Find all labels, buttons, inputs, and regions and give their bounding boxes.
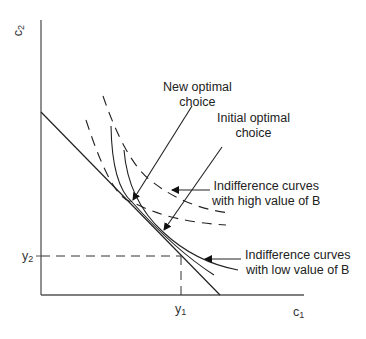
indifference-curve-high-b-1 (86, 120, 226, 225)
y-axis-label-sub: 2 (16, 25, 26, 30)
initial-optimal-line2: choice (217, 126, 290, 141)
x-axis-label-sub: 1 (299, 310, 304, 320)
y2-tick-label: y2 (22, 249, 33, 266)
low-b-line1: Indifference curves (245, 248, 350, 263)
budget-line (41, 112, 220, 295)
y2-tick-sub: 2 (28, 254, 33, 264)
y-axis-label: c2 (11, 25, 28, 36)
new-optimal-line1: New optimal (163, 80, 232, 95)
y1-tick-label: y1 (175, 302, 186, 319)
indifference-curve-low-b-2 (124, 150, 238, 270)
y1-tick-sub: 1 (181, 307, 186, 317)
x-axis-label: c1 (293, 305, 304, 322)
low-b-label: Indifference curves with low value of B (245, 248, 350, 278)
diagram-canvas (0, 0, 366, 339)
high-b-line2: with high value of B (212, 194, 320, 209)
new-optimal-label: New optimal choice (163, 80, 232, 110)
initial-optimal-label: Initial optimal choice (217, 111, 290, 141)
low-b-line2: with low value of B (245, 263, 350, 278)
y-axis-label-text: c (11, 30, 25, 36)
high-b-label: Indifference curves with high value of B (212, 179, 320, 209)
new-optimal-arrow (133, 106, 192, 200)
initial-optimal-line1: Initial optimal (217, 111, 290, 126)
new-optimal-line2: choice (163, 95, 232, 110)
high-b-line1: Indifference curves (212, 179, 320, 194)
